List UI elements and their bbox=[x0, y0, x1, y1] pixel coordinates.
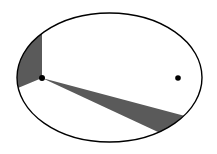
empty-focus-dot bbox=[175, 75, 181, 81]
orbit-diagram: kepler-second-law-orbit bbox=[0, 0, 217, 154]
near-perihelion-sector bbox=[10, 30, 42, 92]
occupied-focus-dot bbox=[39, 75, 45, 81]
orbit-svg bbox=[0, 0, 217, 154]
